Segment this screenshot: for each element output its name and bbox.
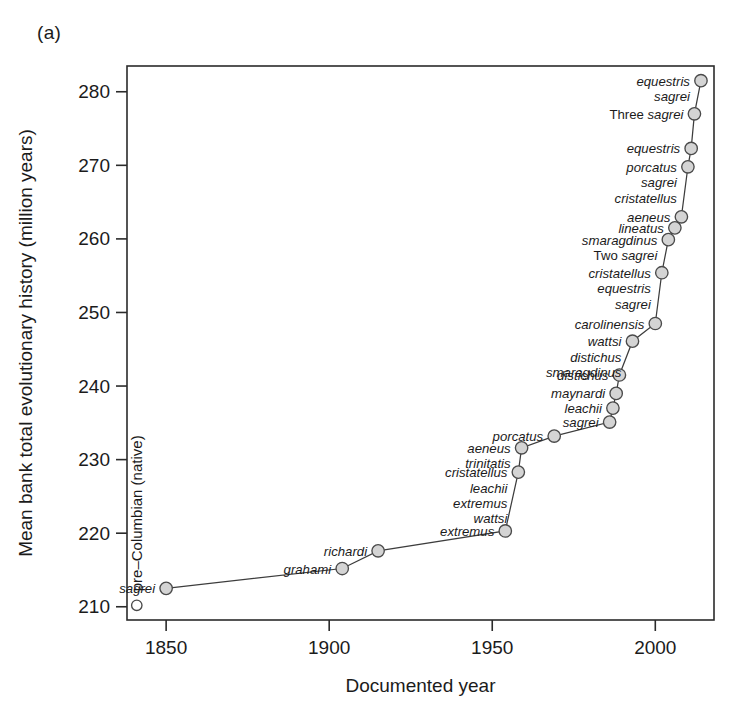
y-tick-label: 260 xyxy=(78,228,110,249)
panel-label: (a) xyxy=(37,22,61,44)
species-label: equestris xyxy=(627,141,681,156)
data-point-marker xyxy=(336,562,348,574)
data-point-marker xyxy=(610,387,622,399)
data-point-marker xyxy=(160,582,172,594)
species-label: richardi xyxy=(324,544,368,559)
species-label: smaragdinus xyxy=(546,365,622,380)
species-label: equestris xyxy=(597,281,651,296)
data-point-marker xyxy=(682,161,694,173)
data-point-marker xyxy=(372,545,384,557)
species-label: cristatellus xyxy=(589,266,652,281)
data-markers xyxy=(160,75,707,595)
data-point-marker xyxy=(662,233,674,245)
data-point-marker xyxy=(685,142,697,154)
x-tick-label: 1850 xyxy=(145,637,187,658)
x-tick-label: 1950 xyxy=(471,637,513,658)
y-tick-label: 240 xyxy=(78,376,110,397)
species-label: cristatellus xyxy=(615,191,678,206)
species-label: trinitatis xyxy=(465,456,511,471)
data-point-marker xyxy=(607,402,619,414)
y-tick-label: 250 xyxy=(78,302,110,323)
data-point-marker xyxy=(649,317,661,329)
scatter-line-chart: 2102202302402502602702801850190019502000… xyxy=(0,0,741,718)
y-tick-label: 220 xyxy=(78,523,110,544)
data-point-marker xyxy=(675,211,687,223)
figure-panel-a: (a) 210220230240250260270280185019001950… xyxy=(0,0,741,718)
species-label: wattsi xyxy=(474,511,509,526)
y-tick-label: 210 xyxy=(78,596,110,617)
data-point-marker xyxy=(669,222,681,234)
species-label: sagrei xyxy=(563,415,600,430)
species-label: Three sagrei xyxy=(609,107,684,122)
native-point-label: pre–Columbian (native) xyxy=(128,435,145,591)
x-axis-title: Documented year xyxy=(346,675,497,696)
data-point-marker xyxy=(548,430,560,442)
data-point-marker xyxy=(499,525,511,537)
y-tick-label: 230 xyxy=(78,449,110,470)
species-label: carolinensis xyxy=(575,317,645,332)
data-point-marker xyxy=(512,466,524,478)
data-point-marker xyxy=(626,335,638,347)
data-point-marker xyxy=(688,108,700,120)
species-label: Two sagrei xyxy=(594,248,659,263)
species-label: extremus xyxy=(453,496,508,511)
y-axis-title: Mean bank total evolutionary history (mi… xyxy=(15,129,36,557)
native-point-marker xyxy=(132,600,142,610)
species-label: sagrei xyxy=(654,89,691,104)
data-point-marker xyxy=(603,416,615,428)
native-reference-point: pre–Columbian (native) xyxy=(128,435,145,610)
data-point-marker xyxy=(695,75,707,87)
data-point-labels: sagreigrahamirichardiextremuscristatellu… xyxy=(119,74,691,597)
species-label: leachii xyxy=(470,481,508,496)
species-label: maynardi xyxy=(551,386,606,401)
x-tick-label: 1900 xyxy=(308,637,350,658)
species-label: distichus xyxy=(570,350,622,365)
data-point-marker xyxy=(656,267,668,279)
species-label: sagrei xyxy=(615,297,652,312)
species-label: leachii xyxy=(565,401,603,416)
species-label: grahami xyxy=(284,562,333,577)
species-label: sagrei xyxy=(641,175,678,190)
y-tick-label: 280 xyxy=(78,81,110,102)
species-label: porcatus xyxy=(492,429,544,444)
x-tick-label: 2000 xyxy=(634,637,676,658)
species-label: equestris xyxy=(636,74,690,89)
species-label: wattsi xyxy=(588,334,623,349)
species-label: aeneus xyxy=(627,210,671,225)
species-label: porcatus xyxy=(625,160,677,175)
y-tick-label: 270 xyxy=(78,155,110,176)
